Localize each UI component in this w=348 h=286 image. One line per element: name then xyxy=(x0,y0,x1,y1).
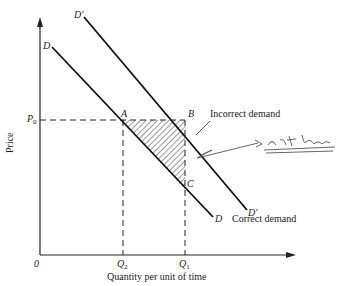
curve-d-end-label: D xyxy=(215,214,222,224)
diagram-canvas xyxy=(0,0,348,286)
handwritten-arrow xyxy=(197,135,335,158)
quantity-q1-label: Q1 xyxy=(179,259,190,271)
correct-demand-label: Correct demand xyxy=(232,214,296,224)
curve-dprime-start-label: D′ xyxy=(74,10,83,20)
curve-d-start-label: D xyxy=(43,41,50,51)
point-b-label: B xyxy=(188,109,194,119)
point-a-label: A xyxy=(121,109,127,119)
incorrect-demand-label: Incorrect demand xyxy=(210,109,280,119)
quantity-q2-label: Q2 xyxy=(117,259,128,271)
correct-demand-curve xyxy=(52,47,213,217)
price-p0-label: P0 xyxy=(27,114,37,126)
point-c-label: C xyxy=(187,179,194,189)
x-axis-label: Quantity per unit of time xyxy=(107,272,206,282)
y-axis xyxy=(37,17,43,255)
incorrect-demand-leader xyxy=(196,121,210,135)
x-axis xyxy=(40,252,296,258)
origin-label: 0 xyxy=(34,259,39,269)
y-axis-label: Price xyxy=(5,132,15,153)
